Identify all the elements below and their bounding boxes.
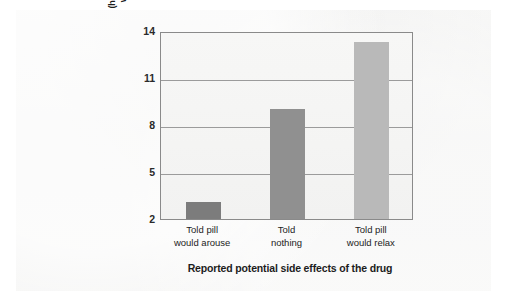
x-tick-label-1-line-2: nothing [239,237,335,250]
y-axis-title: Mean subject opinion (higher score means… [86,0,138,28]
y-tick-label: 8 [121,119,155,131]
bar-told-nothing [270,109,305,219]
bar-told-pill-would-relax [354,42,389,219]
bar-chart-figure: Mean subject opinion (higher score means… [0,0,507,301]
page-margin-top [0,0,507,10]
page-margin-left [0,0,16,301]
y-tick-label: 11 [121,72,155,84]
y-tick-label: 5 [121,166,155,178]
x-tick-label-2: Told pill would relax [323,224,419,249]
y-axis-title-line-3: with the attitude-discrepant essay) [118,0,130,9]
y-axis-title-line-2: (higher score means more agreement [107,0,119,9]
plot-area [160,32,413,220]
y-tick-label: 2 [121,213,155,225]
bar-told-pill-would-arouse [186,202,221,219]
x-tick-label-0-line-2: would arouse [154,237,250,250]
x-axis-title: Reported potential side effects of the d… [120,262,460,274]
y-tick-label: 14 [121,25,155,37]
x-tick-label-2-line-2: would relax [323,237,419,250]
y-axis-title-line-1: Mean subject opinion [94,0,106,9]
page-margin-right [491,0,507,301]
x-tick-label-1: Told nothing [239,224,335,249]
page-margin-bottom [0,291,507,301]
x-tick-label-0: Told pill would arouse [154,224,250,249]
x-tick-label-2-line-1: Told pill [323,224,419,237]
x-tick-label-1-line-1: Told [239,224,335,237]
x-tick-label-0-line-1: Told pill [154,224,250,237]
